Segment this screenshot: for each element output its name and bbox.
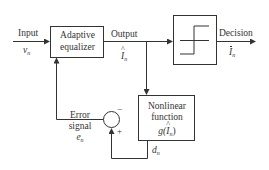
- decision-label: Decision: [219, 28, 253, 38]
- input-label: Input: [18, 28, 38, 38]
- output-symbol: In: [121, 51, 127, 64]
- error-symbol: en: [64, 132, 96, 145]
- desired-symbol: dn: [152, 145, 160, 158]
- output-label: Output: [111, 29, 137, 39]
- equalizer-line1: Adaptive: [51, 30, 104, 40]
- equalizer-line2: equalizer: [51, 42, 104, 52]
- input-symbol: vn: [23, 45, 30, 58]
- plus-sign: +: [117, 126, 122, 136]
- nonlinear-line1: Nonlinear: [139, 101, 195, 111]
- decision-symbol: In: [229, 47, 235, 60]
- nonlinear-expression: g(In): [139, 126, 195, 139]
- error-label-line1: Error: [64, 110, 96, 120]
- diagram-canvas: [0, 0, 269, 170]
- minus-sign: −: [117, 104, 122, 114]
- error-label-line2: signal: [64, 121, 96, 131]
